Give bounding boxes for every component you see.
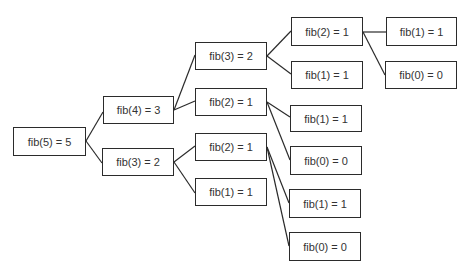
tree-node-n7: fib(2) = 1 — [291, 17, 363, 46]
node-label: fib(0) = 0 — [399, 69, 443, 81]
tree-node-n14: fib(0) = 0 — [385, 61, 457, 89]
tree-node-n0: fib(5) = 5 — [13, 127, 86, 156]
tree-edge-n0-n2 — [86, 141, 102, 163]
tree-edge-n3-n7 — [267, 31, 291, 56]
node-label: fib(1) = 1 — [209, 186, 253, 198]
node-label: fib(1) = 1 — [303, 198, 347, 210]
tree-node-n9: fib(1) = 1 — [290, 105, 362, 132]
node-label: fib(1) = 1 — [400, 26, 444, 38]
tree-node-n6: fib(1) = 1 — [195, 178, 267, 206]
tree-edge-n2-n6 — [174, 162, 195, 193]
tree-edge-n0-n1 — [86, 112, 103, 141]
node-label: fib(0) = 0 — [303, 241, 347, 253]
node-label: fib(0) = 0 — [304, 155, 348, 167]
node-label: fib(3) = 2 — [116, 156, 160, 168]
tree-edge-n7-n14 — [363, 32, 385, 75]
node-label: fib(2) = 1 — [209, 96, 253, 108]
tree-node-n8: fib(1) = 1 — [291, 61, 363, 89]
tree-edge-n4-n10 — [267, 102, 290, 160]
node-label: fib(1) = 1 — [304, 113, 348, 125]
tree-edge-n3-n8 — [267, 56, 291, 74]
tree-edge-n5-n12 — [267, 147, 289, 246]
node-label: fib(2) = 1 — [209, 141, 253, 153]
tree-edge-n2-n5 — [174, 146, 195, 162]
tree-node-n1: fib(4) = 3 — [103, 96, 174, 124]
tree-node-n5: fib(2) = 1 — [195, 133, 267, 161]
tree-node-n13: fib(1) = 1 — [386, 17, 457, 46]
node-label: fib(1) = 1 — [305, 69, 349, 81]
tree-node-n4: fib(2) = 1 — [195, 88, 267, 116]
node-label: fib(4) = 3 — [117, 104, 161, 116]
node-label: fib(3) = 2 — [209, 50, 253, 62]
tree-node-n2: fib(3) = 2 — [102, 148, 174, 176]
fibonacci-tree-diagram: fib(5) = 5fib(4) = 3fib(3) = 2fib(3) = 2… — [0, 0, 471, 276]
tree-node-n10: fib(0) = 0 — [290, 146, 362, 175]
tree-node-n11: fib(1) = 1 — [289, 189, 361, 218]
tree-node-n3: fib(3) = 2 — [195, 42, 267, 70]
node-label: fib(2) = 1 — [305, 26, 349, 38]
node-label: fib(5) = 5 — [28, 136, 72, 148]
tree-node-n12: fib(0) = 0 — [289, 232, 361, 261]
